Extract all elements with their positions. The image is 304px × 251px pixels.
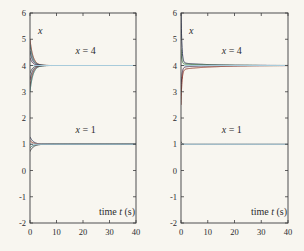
x-tick-label: 20 (230, 227, 239, 237)
y-tick-label: 4 (173, 61, 178, 71)
trajectory-x0-4.3 (30, 58, 136, 66)
y-tick-label: -1 (19, 192, 26, 202)
y-tick-label: 2 (22, 113, 26, 123)
x-tick-label: 40 (132, 227, 141, 237)
trajectory-x0-6.2 (181, 8, 288, 66)
y-axis-label: x (188, 25, 194, 36)
y-tick-label: 1 (22, 139, 26, 149)
trajectory-x0-0.72 (30, 144, 136, 151)
x-tick-label: 30 (257, 227, 266, 237)
y-tick-label: 6 (22, 8, 26, 18)
y-axis-label: x (37, 25, 43, 36)
x-tick-label: 0 (179, 227, 183, 237)
x-axis-label: time t (s) (251, 206, 287, 218)
x-tick-label: 10 (52, 227, 61, 237)
y-tick-label: 3 (173, 87, 177, 97)
x-tick-label: 20 (79, 227, 88, 237)
y-tick-label: 0 (22, 166, 26, 176)
y-tick-label: 5 (22, 34, 26, 44)
x-tick-label: 10 (204, 227, 213, 237)
y-tick-label: -2 (19, 218, 26, 228)
annotation: x = 4 (221, 45, 242, 56)
right-plot: 0102030406543210-1-2x = 4x = 1xtime t (s… (170, 8, 292, 237)
x-axis-label: time t (s) (99, 206, 135, 218)
tick-labels: 0102030406543210-1-2 (170, 8, 292, 237)
y-tick-label: 5 (173, 34, 177, 44)
x-tick-label: 40 (284, 227, 293, 237)
x-tick-label: 0 (28, 227, 32, 237)
y-tick-label: 4 (22, 61, 27, 71)
tick-labels: 0102030406543210-1-2 (19, 8, 140, 237)
y-tick-label: -2 (170, 218, 177, 228)
trajectory-x0-2.5 (181, 66, 288, 105)
plots-canvas: 0102030406543210-1-2x = 4x = 1xtime t (s… (0, 0, 304, 251)
y-tick-label: -1 (170, 192, 177, 202)
trajectory-x0-3.7 (30, 66, 136, 74)
trajectory-x0-1.28 (30, 137, 136, 144)
annotation: x = 1 (75, 124, 96, 135)
trajectory-x0-3.05 (181, 66, 288, 91)
y-tick-label: 1 (173, 139, 177, 149)
trajectory-x0-3.2 (30, 66, 136, 87)
x-tick-label: 30 (105, 227, 114, 237)
trajectory-x0-1.14 (30, 141, 136, 145)
y-tick-label: 6 (173, 8, 177, 18)
trajectory-x0-0.86 (30, 144, 136, 148)
y-tick-label: 2 (173, 113, 177, 123)
y-tick-label: 3 (22, 87, 26, 97)
trajectory-x0-3.0 (30, 66, 136, 92)
trajectory-x0-3.45 (30, 66, 136, 80)
y-tick-label: 0 (173, 166, 177, 176)
annotation: x = 1 (221, 124, 242, 135)
annotation: x = 4 (75, 45, 96, 56)
trajectory-figure: 0102030406543210-1-2x = 4x = 1xtime t (s… (0, 0, 304, 251)
left-plot: 0102030406543210-1-2x = 4x = 1xtime t (s… (19, 8, 140, 237)
